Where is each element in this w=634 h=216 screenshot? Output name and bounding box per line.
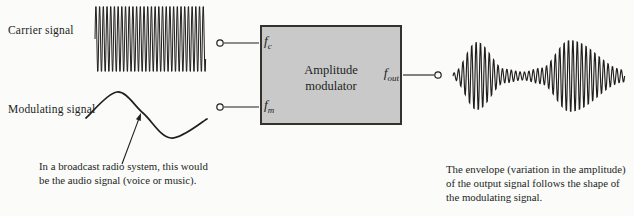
caption-left-line1: In a broadcast radio system, this would [39, 160, 208, 174]
fm-port-label: fm [264, 97, 274, 113]
caption-left-line2: be the audio signal (voice or music). [39, 174, 208, 188]
modulating-signal-label: Modulating signal [8, 103, 95, 115]
caption-left: In a broadcast radio system, this would … [39, 160, 208, 188]
am-output-waveform [453, 41, 625, 111]
caption-right-line2: of the output signal follows the shape o… [446, 177, 626, 191]
fm-subscript: m [268, 105, 275, 115]
annotation-arrow-head [136, 113, 141, 121]
fc-port-label: fc [264, 33, 272, 49]
annotation-arrow-line [122, 119, 139, 164]
fout-subscript: out [387, 73, 399, 83]
caption-right-line1: The envelope (variation in the amplitude… [446, 163, 626, 177]
fc-subscript: c [268, 41, 272, 51]
terminal-circle [435, 72, 441, 78]
carrier-signal-label: Carrier signal [8, 24, 74, 36]
caption-right-line3: the modulating signal. [446, 191, 626, 205]
terminal-circle [217, 104, 223, 110]
am-modulation-figure: Carrier signal Modulating signal Amplitu… [0, 0, 634, 216]
terminal-circle [217, 40, 223, 46]
caption-right: The envelope (variation in the amplitude… [446, 163, 626, 204]
carrier-waveform [95, 7, 206, 72]
fout-port-label: fout [358, 65, 399, 81]
modulating-waveform [86, 92, 207, 138]
